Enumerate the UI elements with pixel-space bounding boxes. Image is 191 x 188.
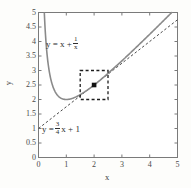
line-equation-denominator: 4 [55,128,61,137]
x-tick-label: 0 [29,161,49,169]
x-tick-label: 1 [56,161,76,169]
x-tick-label: 4 [140,161,160,169]
tangency-point-marker [92,83,97,88]
y-tick-label: 3 [12,67,36,75]
y-tick-label: 0 [12,154,36,162]
x-tick-label: 3 [112,161,132,169]
curve-equation-denominator: x [73,43,79,52]
line-equation-fraction: 34 [55,121,61,137]
y-tick-label: 1.5 [12,110,36,118]
line-equation-suffix: x + 1 [61,124,80,134]
curve-equation-lhs: y = x + [46,39,72,49]
curve-equation-numerator: 1 [73,36,79,44]
y-tick-label: 2 [12,96,36,104]
line-equation-lhs: y = [42,124,54,134]
y-tick-label: 2.5 [12,81,36,89]
figure: y x y = x +1x y =34x + 1 01234500.511.52… [0,0,191,188]
y-tick-label: 0.5 [12,139,36,147]
y-tick-label: 4.5 [12,23,36,31]
y-tick-label: 4 [12,38,36,46]
x-tick-label: 5 [168,161,188,169]
y-tick-label: 5 [12,9,36,17]
line-equation-annotation: y =34x + 1 [42,121,80,137]
x-axis-label: x [98,172,116,182]
curve-equation-annotation: y = x +1x [46,36,79,52]
curve-equation-fraction: 1x [73,36,79,52]
y-tick-label: 1 [12,125,36,133]
line-equation-numerator: 3 [55,121,61,129]
y-tick-label: 3.5 [12,52,36,60]
x-tick-label: 2 [84,161,104,169]
